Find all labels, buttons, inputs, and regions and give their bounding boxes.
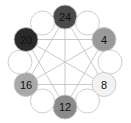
- circle-ring-diagram: 2448121620: [0, 0, 131, 123]
- node-24: 24: [53, 5, 77, 29]
- node-circle: [31, 11, 55, 35]
- node-circle: [98, 50, 122, 74]
- node-empty: [98, 50, 122, 74]
- node-label: 8: [101, 79, 107, 91]
- node-circle: [8, 50, 32, 74]
- node-empty: [8, 50, 32, 74]
- node-16: 16: [14, 73, 38, 97]
- node-label: 12: [59, 101, 71, 113]
- node-empty: [76, 89, 100, 113]
- node-circle: [76, 89, 100, 113]
- node-12: 12: [53, 95, 77, 119]
- node-4: 4: [92, 28, 116, 52]
- node-label: 4: [101, 34, 107, 46]
- node-label: 16: [20, 79, 32, 91]
- node-label: 20: [20, 34, 32, 46]
- node-empty: [31, 11, 55, 35]
- node-label: 24: [59, 11, 71, 23]
